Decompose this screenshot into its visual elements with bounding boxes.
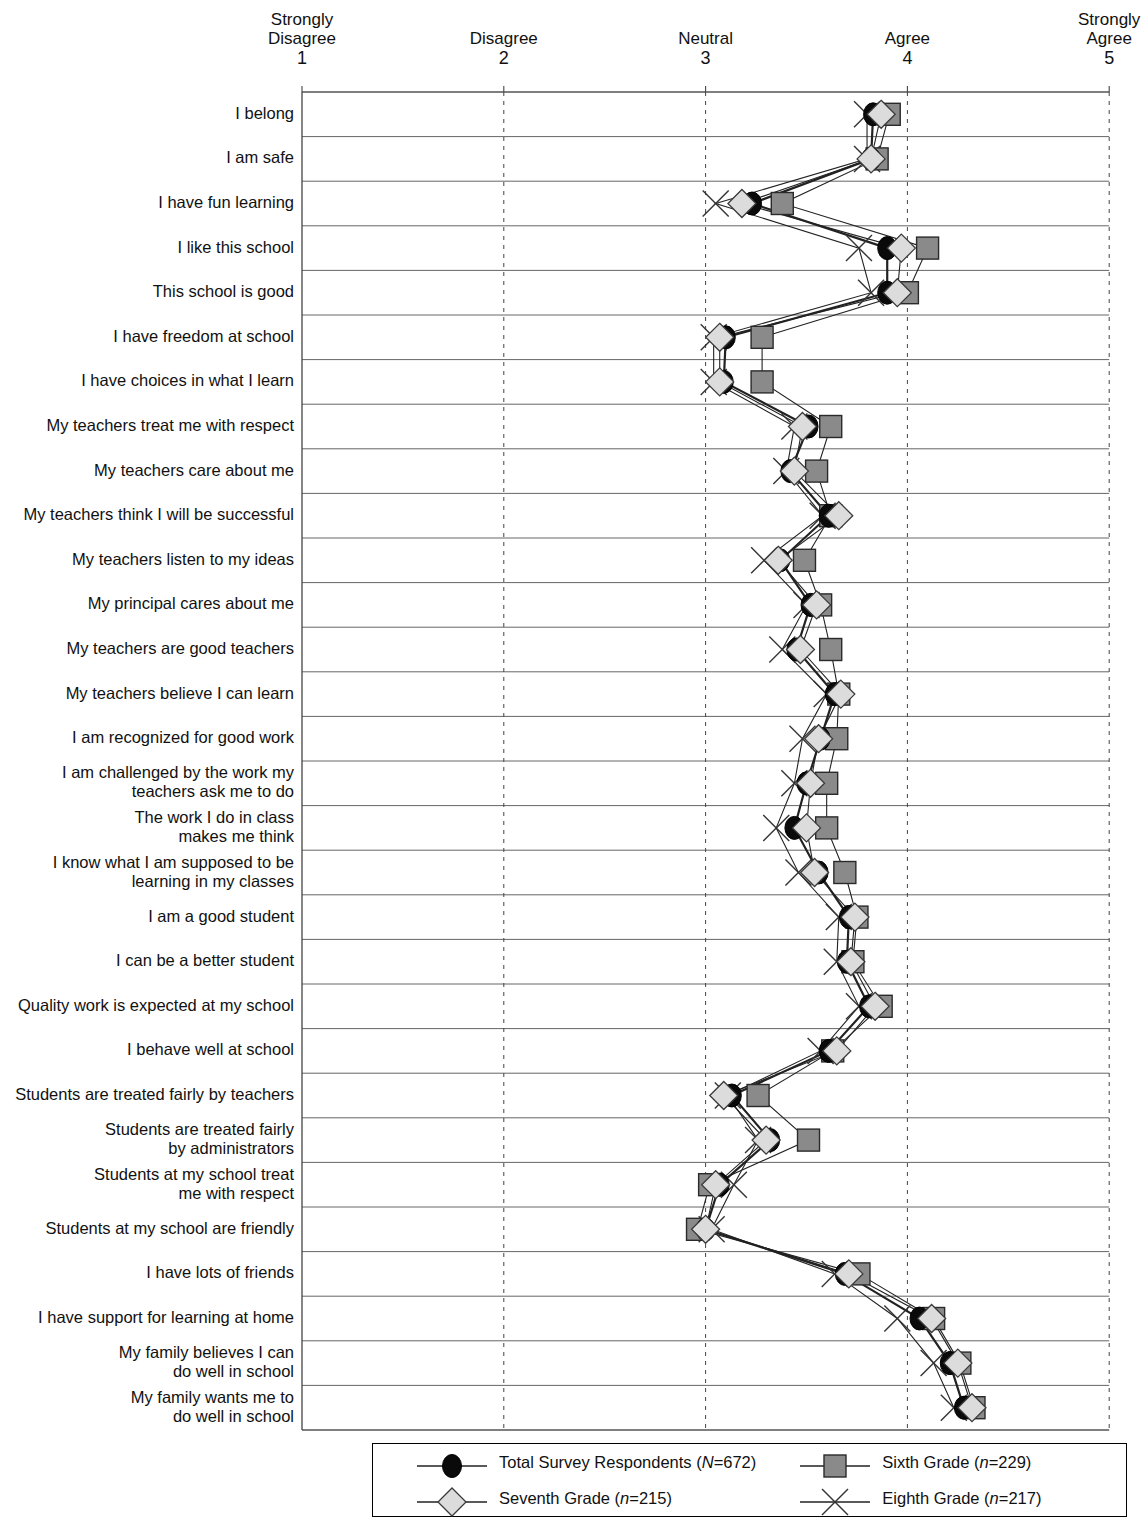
legend-label: Total Survey Respondents (N=672) <box>499 1453 756 1472</box>
marker-square-sixth <box>820 639 842 661</box>
legend-symbol-svg <box>415 1451 489 1481</box>
survey-line-chart: StronglyDisagree1Disagree2Neutral3Agree4… <box>0 0 1145 1519</box>
marker-circle-total <box>443 1455 462 1478</box>
legend-stat-symbol: n <box>990 1489 999 1507</box>
chart-legend: Total Survey Respondents (N=672)Sixth Gr… <box>372 1443 1127 1517</box>
marker-square-sixth <box>751 371 773 393</box>
legend-stat-symbol: n <box>980 1453 989 1471</box>
plot-svg <box>0 0 1145 1519</box>
marker-square-sixth <box>917 237 939 259</box>
legend-stat-symbol: n <box>620 1489 629 1507</box>
legend-label: Sixth Grade (n=229) <box>882 1453 1031 1472</box>
legend-marker-cross-icon <box>798 1487 872 1509</box>
marker-square-sixth <box>747 1085 769 1107</box>
marker-square-sixth <box>834 862 856 884</box>
marker-square-sixth <box>793 549 815 571</box>
legend-stat-symbol: N <box>702 1453 714 1471</box>
legend-symbol-svg <box>798 1451 872 1481</box>
legend-item-sixth[interactable]: Sixth Grade (n=229) <box>756 1444 1126 1480</box>
legend-item-seventh[interactable]: Seventh Grade (n=215) <box>373 1480 756 1516</box>
marker-square-sixth <box>771 193 793 215</box>
legend-label: Eighth Grade (n=217) <box>882 1489 1041 1508</box>
marker-square-sixth <box>751 326 773 348</box>
marker-square-sixth <box>824 1455 846 1477</box>
legend-label: Seventh Grade (n=215) <box>499 1489 672 1508</box>
legend-marker-diamond-icon <box>415 1487 489 1509</box>
marker-diamond-seventh <box>438 1488 466 1516</box>
marker-square-sixth <box>820 416 842 438</box>
legend-symbol-svg <box>798 1487 872 1517</box>
legend-item-total[interactable]: Total Survey Respondents (N=672) <box>373 1444 756 1480</box>
legend-symbol-svg <box>415 1487 489 1517</box>
marker-square-sixth <box>798 1129 820 1151</box>
legend-marker-square-icon <box>798 1451 872 1473</box>
legend-marker-circle-icon <box>415 1451 489 1473</box>
legend-item-eighth[interactable]: Eighth Grade (n=217) <box>756 1480 1126 1516</box>
